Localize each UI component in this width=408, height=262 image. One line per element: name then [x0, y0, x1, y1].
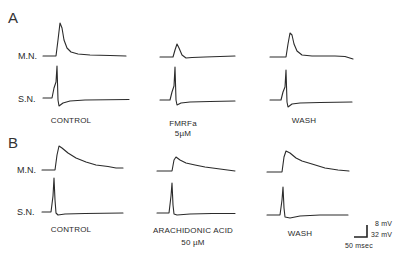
trace-b-control-sn [42, 178, 123, 215]
condition-label-a-wash: WASH [292, 116, 317, 125]
trace-a-fmrfa-sn [160, 67, 235, 105]
trace-b-aa-mn [157, 157, 235, 171]
scale-label-32mv: 32 mV [371, 231, 392, 238]
row-label-sn-a: S.N. [18, 94, 36, 104]
trace-b-wash-sn [267, 187, 348, 218]
trace-a-fmrfa-mn [160, 44, 235, 58]
row-label-mn-b: M.N. [17, 165, 36, 175]
condition-sublabel-b-arachidonic-acid: 50 µM [181, 238, 204, 247]
condition-label-a-fmrfa: FMRFa [169, 119, 197, 128]
scale-bar [354, 225, 367, 237]
trace-b-control-mn [42, 146, 123, 170]
condition-label-a-control: CONTROL [51, 116, 92, 125]
condition-label-b-control: CONTROL [51, 225, 92, 234]
condition-label-b-arachidonic-acid: ARACHIDONIC ACID [153, 226, 233, 235]
trace-b-wash-mn [267, 151, 349, 172]
row-label-mn-a: M.N. [18, 51, 37, 61]
trace-a-control-mn [43, 23, 126, 56]
trace-a-wash-mn [270, 33, 353, 59]
row-label-sn-b: S.N. [17, 207, 35, 217]
panel-label-a: A [8, 9, 18, 26]
panel-label-b: B [8, 134, 18, 151]
trace-a-control-sn [43, 66, 129, 106]
trace-b-aa-sn [157, 183, 235, 215]
trace-a-wash-sn [270, 70, 352, 107]
condition-label-b-wash: WASH [288, 229, 313, 238]
scale-label-50msec: 50 msec [345, 242, 373, 249]
scale-label-8mv: 8 mV [375, 220, 392, 227]
traces-figure [0, 0, 408, 262]
condition-sublabel-a-fmrfa: 5µM [175, 129, 191, 138]
